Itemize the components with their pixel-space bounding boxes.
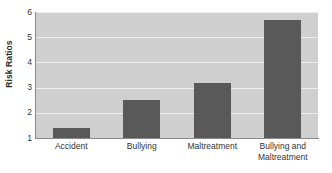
y-tick-label: 6 [18,8,32,17]
bar-chart: Risk Ratios 123456 AccidentBullyingMaltr… [0,0,332,173]
x-tick-label: Maltreatment [177,141,248,152]
x-tick-label: Bullying andMaltreatment [248,141,319,162]
y-tick-label: 1 [18,134,32,143]
x-tick-label-line: Accident [36,141,107,152]
y-axis-title: Risk Ratios [2,28,16,100]
x-tick-label-line: Bullying and [248,141,319,152]
x-axis-line [36,138,319,139]
bar[interactable] [194,83,231,138]
x-tick-label-line: Bullying [107,141,178,152]
y-tick-label: 3 [18,83,32,92]
y-tick-label: 4 [18,58,32,67]
bar[interactable] [264,20,301,138]
x-tick-label: Bullying [107,141,178,152]
y-tick-label: 5 [18,33,32,42]
bar[interactable] [123,100,160,138]
gridline [36,12,318,13]
plot-area [36,12,318,138]
x-tick-label: Accident [36,141,107,152]
x-tick-label-line: Maltreatment [177,141,248,152]
y-axis-tick-labels: 123456 [18,12,32,138]
x-axis-tick-labels: AccidentBullyingMaltreatmentBullying and… [36,141,318,171]
y-tick-label: 2 [18,108,32,117]
bar[interactable] [53,128,90,138]
x-tick-label-line: Maltreatment [248,152,319,163]
